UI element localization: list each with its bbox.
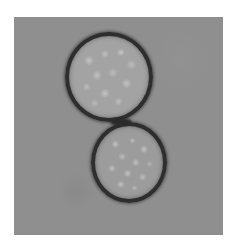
cell-contact-point bbox=[110, 118, 132, 126]
upper-cell-membrane bbox=[65, 32, 153, 122]
lower-cell-membrane bbox=[91, 122, 167, 203]
micrograph-frame bbox=[14, 17, 223, 235]
lower-cell bbox=[91, 122, 167, 203]
upper-cell bbox=[65, 32, 153, 122]
